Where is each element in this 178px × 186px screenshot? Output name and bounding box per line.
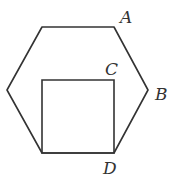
label-d: D xyxy=(102,158,117,178)
geometry-diagram: A B C D xyxy=(0,0,178,186)
hexagon xyxy=(7,27,148,153)
square xyxy=(42,80,114,153)
diagram-svg: A B C D xyxy=(0,0,178,186)
label-b: B xyxy=(154,84,168,104)
label-a: A xyxy=(118,7,132,27)
label-c: C xyxy=(105,59,118,79)
